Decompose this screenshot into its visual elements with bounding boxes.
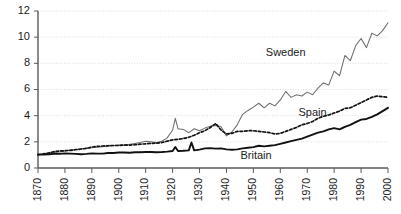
series-label-britain: Britain (240, 149, 271, 161)
ytick-label-6: 6 (24, 82, 30, 94)
series-line-sweden (38, 23, 388, 155)
series-line-spain (38, 96, 388, 155)
xtick-label-1960: 1960 (273, 178, 285, 202)
chart-figure: 024681012 187018801890190019101920193019… (0, 0, 401, 214)
xtick-label-1880: 1880 (58, 178, 70, 202)
xtick-label-1980: 1980 (327, 178, 339, 202)
gridlines-group (38, 11, 388, 142)
xtick-label-1920: 1920 (165, 178, 177, 202)
xtick-label-1910: 1910 (138, 178, 150, 202)
xtick-label-1890: 1890 (85, 178, 97, 202)
chart-canvas: 024681012 187018801890190019101920193019… (0, 0, 401, 214)
ytick-label-10: 10 (18, 30, 30, 42)
xtick-label-1950: 1950 (246, 178, 258, 202)
ytick-label-4: 4 (24, 109, 30, 121)
xtick-label-1940: 1940 (219, 178, 231, 202)
xtick-label-1970: 1970 (300, 178, 312, 202)
ytick-label-8: 8 (24, 56, 30, 68)
ytick-label-0: 0 (24, 161, 30, 173)
xtick-label-1990: 1990 (354, 178, 366, 202)
series-group (38, 23, 388, 155)
ytick-label-12: 12 (18, 4, 30, 16)
series-label-spain: Spain (299, 106, 327, 118)
xtick-labels-group: 1870188018901900191019201930194019501960… (31, 178, 393, 202)
xtick-label-1900: 1900 (112, 178, 124, 202)
xtick-label-2000: 2000 (381, 178, 393, 202)
xtick-label-1930: 1930 (192, 178, 204, 202)
ytick-labels-group: 024681012 (18, 4, 30, 173)
ytick-label-2: 2 (24, 135, 30, 147)
series-label-sweden: Sweden (266, 46, 306, 58)
xtick-label-1870: 1870 (31, 178, 43, 202)
